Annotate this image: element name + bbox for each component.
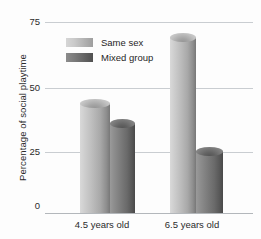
axis-baseline [45, 213, 253, 214]
gridline-75 [45, 22, 253, 23]
y-tick-label-50: 50 [14, 82, 40, 93]
legend-swatch-icon-same-sex [66, 38, 93, 47]
x-tick-label-group-1: 4.5 years old [62, 219, 142, 230]
legend-label-mixed-group: Mixed group [101, 52, 153, 63]
y-tick-label-0: 0 [14, 200, 40, 211]
bar-mixed-group-6-5[interactable] [196, 147, 223, 213]
y-tick-label-75: 75 [14, 16, 40, 27]
bar-cap [196, 147, 223, 156]
bar-body [110, 123, 135, 213]
bar-cap [170, 33, 196, 42]
legend-swatch-icon-mixed-group [66, 53, 93, 62]
bar-body [170, 37, 196, 213]
legend-item-mixed-group[interactable]: Mixed group [66, 51, 153, 64]
legend-item-same-sex[interactable]: Same sex [66, 36, 153, 49]
bar-cap [80, 99, 110, 108]
gridline-50 [45, 88, 253, 89]
legend: Same sex Mixed group [66, 36, 153, 66]
y-tick-label-25: 25 [14, 146, 40, 157]
bar-same-sex-6-5[interactable] [170, 33, 196, 213]
y-axis-title: Percentage of social playtime [17, 23, 28, 213]
bar-chart: Percentage of social playtime 75 50 25 0 [0, 0, 261, 239]
bar-body [196, 151, 223, 213]
x-tick-label-group-2: 6.5 years old [152, 219, 232, 230]
bar-cap [110, 119, 135, 128]
bar-body [80, 103, 110, 213]
bar-same-sex-4-5[interactable] [80, 99, 110, 213]
legend-label-same-sex: Same sex [101, 37, 143, 48]
bar-mixed-group-4-5[interactable] [110, 119, 135, 213]
